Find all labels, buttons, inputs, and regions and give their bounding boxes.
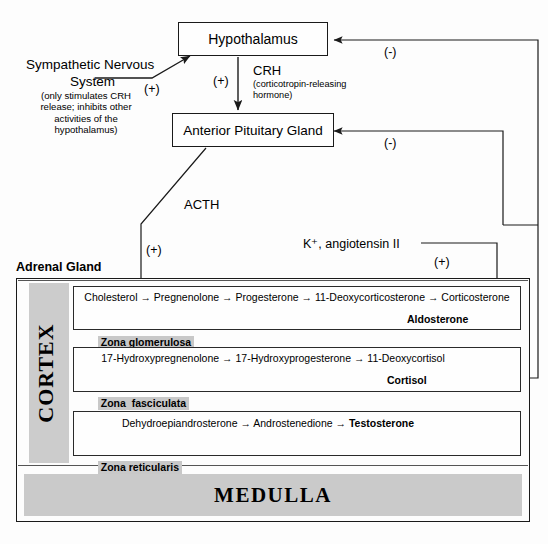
node-sns-line1: Sympathetic Nervous: [26, 57, 154, 73]
node-sns-note: (only stimulates CRH release; inhibits o…: [27, 90, 145, 135]
signal-acth: ACTH: [184, 197, 219, 212]
sign-plus-acth: (+): [146, 243, 162, 258]
sign-plus-sns: (+): [144, 82, 160, 97]
diagram-canvas: Hypothalamus Anterior Pituitary Gland Sy…: [0, 0, 548, 544]
medulla-row[interactable]: MEDULLA: [24, 474, 522, 516]
zone-product-cortisol: Cortisol: [387, 374, 427, 386]
signal-crh-abbrev: CRH: [253, 63, 281, 78]
signal-k-angiotensin: K⁺, angiotensin II: [303, 237, 400, 252]
node-sns-line2: System: [70, 74, 115, 90]
node-hypothalamus[interactable]: Hypothalamus: [178, 22, 328, 56]
sign-plus-crh: (+): [213, 74, 229, 89]
zone-pathway-reticularis: Dehydroepiandrosterone → Androstenedione…: [78, 417, 458, 429]
node-anterior-pituitary-label: Anterior Pituitary Gland: [183, 123, 323, 138]
node-anterior-pituitary[interactable]: Anterior Pituitary Gland: [172, 113, 334, 147]
sign-minus-hypothalamus: (-): [384, 45, 397, 60]
zone-pathway-glomerulosa: Cholesterol → Pregnenolone → Progesteron…: [78, 291, 516, 303]
zone-pathway-reticularis-product: Testosterone: [349, 417, 414, 429]
feedback-cortisol-to-pituitary: [334, 131, 538, 225]
page-title: Adrenal Gland: [16, 260, 101, 275]
sign-plus-k-angiotensin: (+): [434, 255, 450, 270]
medulla-label: MEDULLA: [214, 483, 332, 508]
arrow-acth-pituitary-to-adrenal: [141, 148, 206, 296]
node-hypothalamus-label: Hypothalamus: [208, 31, 298, 47]
zone-pathway-fasciculata: 17-Hydroxypregnenolone → 17-Hydroxyproge…: [78, 352, 468, 364]
zone-product-aldosterone: Aldosterone: [407, 313, 468, 325]
cortex-label: CORTEX: [33, 313, 59, 433]
signal-crh-full: (corticotropin-releasing hormone): [253, 79, 346, 101]
sign-minus-pituitary: (-): [384, 136, 397, 151]
zone-pathway-reticularis-pre: Dehydroepiandrosterone → Androstenedione…: [122, 417, 349, 429]
